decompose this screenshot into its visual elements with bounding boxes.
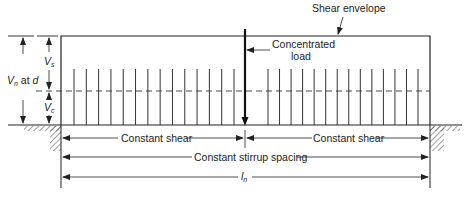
constant-stirrup-spacing-label: Constant stirrup spacing: [194, 151, 307, 163]
shear-diagram: Concentrated load Shear envelope Vn at d…: [0, 0, 464, 205]
vc-label: Vc: [44, 101, 55, 114]
shear-envelope-leader: [338, 17, 343, 34]
constant-shear-right-label: Constant shear: [313, 132, 385, 144]
shear-envelope-label: Shear envelope: [312, 2, 386, 14]
vn-label: Vn at d: [7, 74, 40, 87]
ln-label: ln: [241, 170, 247, 183]
concentrated-load-label-2: load: [291, 50, 311, 62]
left-support: [24, 126, 61, 151]
concentrated-load-label-1: Concentrated: [272, 38, 335, 50]
right-support: [430, 126, 460, 151]
vs-label: Vs: [44, 55, 55, 68]
constant-shear-left-label: Constant shear: [121, 132, 193, 144]
